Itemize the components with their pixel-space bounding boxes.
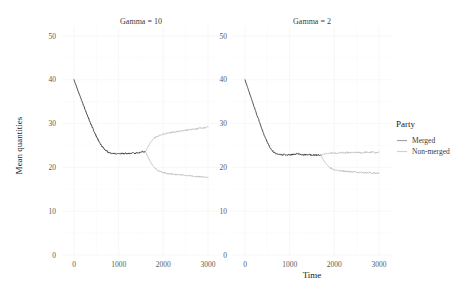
y-tick-label-40: 40 <box>220 75 228 84</box>
y-tick-label-10: 10 <box>49 207 57 216</box>
legend-label-merged: Merged <box>412 136 435 145</box>
legend: PartyMergedNon-merged <box>396 119 450 156</box>
y-tick-label-30: 30 <box>49 119 57 128</box>
y-tick-label-10: 10 <box>220 207 228 216</box>
x-axis-title: Time <box>303 270 322 280</box>
y-axis-title: Mean quantities <box>14 116 24 174</box>
y-tick-label-50: 50 <box>49 32 57 41</box>
legend-title: Party <box>396 119 415 129</box>
x-tick-label-1000: 1000 <box>282 260 297 269</box>
x-tick-label-2000: 2000 <box>156 260 171 269</box>
y-tick-label-20: 20 <box>220 163 228 172</box>
x-tick-label-1000: 1000 <box>111 260 126 269</box>
y-tick-label-0: 0 <box>223 251 227 260</box>
facet-panel-2: Gamma = 2010203040500100020003000 <box>220 17 394 269</box>
x-tick-label-3000: 3000 <box>201 260 216 269</box>
x-tick-label-0: 0 <box>243 260 247 269</box>
chart-figure: Gamma = 10010203040500100020003000Gamma … <box>0 0 473 300</box>
legend-label-non-merged: Non-merged <box>412 147 450 156</box>
faceted-line-chart: Gamma = 10010203040500100020003000Gamma … <box>0 0 473 300</box>
x-tick-label-3000: 3000 <box>372 260 387 269</box>
x-tick-label-0: 0 <box>72 260 76 269</box>
x-tick-label-2000: 2000 <box>327 260 342 269</box>
facet-title-2: Gamma = 2 <box>293 17 331 26</box>
y-tick-label-50: 50 <box>220 32 228 41</box>
y-tick-label-40: 40 <box>49 75 57 84</box>
y-tick-label-30: 30 <box>220 119 228 128</box>
y-tick-label-20: 20 <box>49 163 57 172</box>
y-tick-label-0: 0 <box>52 251 56 260</box>
facet-panel-1: Gamma = 10010203040500100020003000 <box>49 17 223 269</box>
facet-title-1: Gamma = 10 <box>120 17 162 26</box>
